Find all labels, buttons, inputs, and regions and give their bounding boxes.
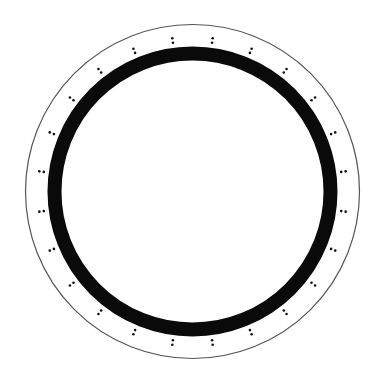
dot <box>250 333 253 336</box>
dot <box>330 248 333 251</box>
dot <box>285 68 288 71</box>
dot <box>330 133 333 136</box>
dot <box>314 284 317 287</box>
dot <box>314 96 317 99</box>
dot <box>38 210 41 213</box>
dot <box>334 131 337 134</box>
dot <box>211 339 214 342</box>
dot <box>48 249 51 252</box>
dot <box>42 210 45 213</box>
dot <box>134 52 137 55</box>
dot <box>53 248 56 251</box>
dot <box>340 171 343 174</box>
dot <box>48 131 51 134</box>
dot <box>340 210 343 213</box>
dot <box>250 47 253 50</box>
dot <box>97 68 100 71</box>
dot <box>211 41 214 44</box>
dot <box>334 249 337 252</box>
dot <box>42 171 45 174</box>
dot <box>211 37 214 40</box>
dot <box>171 343 174 346</box>
ring-diagram <box>0 0 386 379</box>
dot <box>283 71 286 74</box>
dot <box>310 99 313 102</box>
dot <box>285 313 288 316</box>
dot <box>38 170 41 173</box>
dot <box>171 37 174 40</box>
dot <box>249 52 252 55</box>
dot <box>53 133 56 136</box>
diagram-canvas <box>0 0 386 379</box>
dot <box>134 329 137 332</box>
dot <box>69 96 72 99</box>
dot <box>344 210 347 213</box>
dot <box>172 41 175 44</box>
dot <box>69 284 72 287</box>
dot <box>100 309 103 312</box>
dot <box>72 99 75 102</box>
dot <box>132 333 135 336</box>
dot <box>132 47 135 50</box>
dot <box>97 313 100 316</box>
dot <box>344 170 347 173</box>
dot <box>172 339 175 342</box>
dot <box>283 309 286 312</box>
dot <box>72 282 75 285</box>
dot <box>310 282 313 285</box>
dot <box>211 343 214 346</box>
dot <box>100 71 103 74</box>
dot <box>249 329 252 332</box>
